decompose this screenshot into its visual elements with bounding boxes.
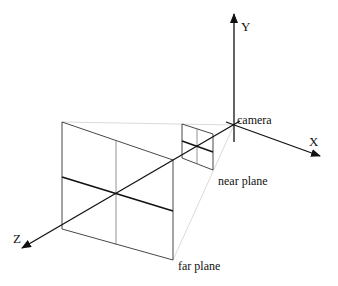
y-axis-label: Y [241, 19, 251, 34]
near-plane-label: near plane [218, 174, 268, 188]
z-axis-label: Z [13, 231, 21, 246]
frustum-edges [62, 122, 234, 260]
x-axis-label: X [309, 134, 319, 149]
axes [22, 14, 320, 248]
x-axis [226, 122, 320, 156]
near-plane [182, 124, 213, 170]
frustum-diagram: Y X Z camera near plane far plane [0, 0, 338, 286]
far-plane-label: far plane [178, 259, 220, 273]
camera-label: camera [237, 113, 272, 127]
far-plane [62, 122, 173, 260]
